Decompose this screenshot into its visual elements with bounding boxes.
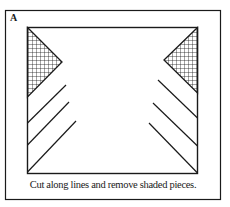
inner-square [28, 28, 198, 174]
right-shaded-triangle [164, 28, 198, 94]
left-cut-lines [28, 85, 77, 172]
left-shaded-triangle [28, 28, 63, 98]
right-cut-lines [149, 80, 198, 173]
cutting-diagram-figure: A Cut along lines and remove shaded piec… [0, 0, 230, 207]
left-cut-line-3 [28, 121, 77, 172]
diagram-svg [0, 0, 230, 207]
figure-caption: Cut along lines and remove shaded pieces… [5, 179, 221, 190]
right-cut-line-2 [153, 103, 198, 146]
right-cut-line-3 [149, 123, 198, 173]
left-cut-line-2 [28, 102, 70, 145]
panel-label: A [10, 12, 17, 23]
